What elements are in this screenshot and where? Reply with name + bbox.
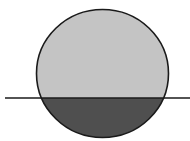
diagram-canvas: [0, 0, 190, 141]
